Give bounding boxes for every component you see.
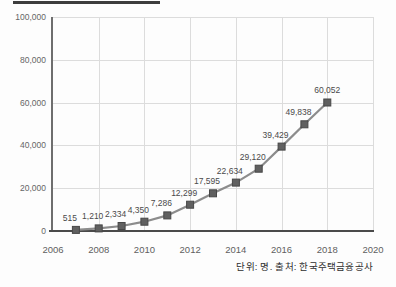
title-underline-bar	[13, 1, 160, 4]
data-point-marker	[255, 165, 262, 172]
data-point-marker	[95, 225, 102, 232]
source-caption: 단위: 명. 출처: 한국주택금융공사	[236, 259, 373, 273]
y-tick-label: 0	[0, 226, 46, 236]
series-line-layer	[53, 17, 373, 231]
y-tick-label: 40,000	[0, 140, 46, 150]
y-tick-label: 20,000	[0, 183, 46, 193]
data-point-label: 22,634	[217, 166, 243, 176]
data-point-marker	[232, 179, 239, 186]
x-tick-label: 2020	[362, 244, 383, 255]
x-tick-label: 2012	[180, 244, 201, 255]
data-point-marker	[210, 190, 217, 197]
data-point-label: 2,334	[105, 209, 126, 219]
data-point-marker	[141, 218, 148, 225]
data-point-marker	[187, 201, 194, 208]
data-point-label: 39,429	[263, 130, 289, 140]
data-point-label: 1,210	[82, 211, 103, 221]
x-tick-label: 2014	[225, 244, 246, 255]
plot-area	[53, 17, 373, 231]
x-tick-label: 2018	[317, 244, 338, 255]
data-point-label: 17,595	[194, 176, 220, 186]
chart-screenshot: 020,00040,00060,00080,000100,000 2006200…	[0, 0, 396, 287]
data-point-marker	[118, 223, 125, 230]
x-tick-label: 2010	[134, 244, 155, 255]
data-point-label: 49,838	[285, 107, 311, 117]
v-gridline	[373, 17, 374, 231]
y-tick-label: 80,000	[0, 55, 46, 65]
y-tick-label: 60,000	[0, 98, 46, 108]
data-point-marker	[164, 212, 171, 219]
data-point-label: 60,052	[314, 85, 340, 95]
data-point-label: 12,299	[171, 188, 197, 198]
x-tick-label: 2016	[271, 244, 292, 255]
x-tick-label: 2006	[42, 244, 63, 255]
data-point-label: 29,120	[240, 152, 266, 162]
data-point-marker	[301, 121, 308, 128]
data-point-label: 4,350	[128, 205, 149, 215]
data-point-marker	[278, 143, 285, 150]
data-point-label: 7,286	[151, 198, 172, 208]
y-tick-label: 100,000	[0, 12, 46, 22]
data-point-label: 515	[63, 213, 77, 223]
data-point-marker	[324, 99, 331, 106]
data-point-marker	[72, 226, 79, 233]
x-tick-label: 2008	[88, 244, 109, 255]
